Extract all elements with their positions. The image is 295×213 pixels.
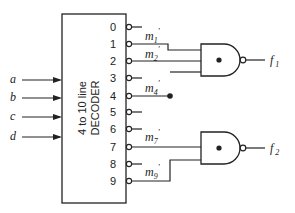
bubble-icon [126,161,131,166]
input-a: a [10,72,62,86]
gate-dot-icon [216,145,221,150]
gate-dot-icon [216,57,221,62]
label-m7: m7′ [145,127,161,146]
label-m2: m2′ [145,44,161,63]
input-label-d: d [10,129,17,143]
decoder-label-line1: 4 to 10 line [76,81,88,135]
output-bubble-icon [240,145,246,151]
output-index-1: 1 [110,38,116,50]
wire-m1 [132,44,201,50]
input-label-c: c [10,109,16,123]
output-index-3: 3 [110,72,116,84]
nand-gate-2: f2 [201,132,279,164]
wiring [132,44,201,181]
minterm-labels: m1′ m2′ m4′ m7′ m9′ [145,26,161,181]
output-index-4: 4 [110,90,116,102]
output-index-9: 9 [110,175,116,187]
bubble-icon [126,75,131,80]
output-index-8: 8 [110,158,116,170]
output-index-6: 6 [110,123,116,135]
decoder-label: 4 to 10 line DECODER [76,80,101,135]
output-bubble-icon [240,57,246,63]
label-m9: m9′ [145,162,161,181]
arrow-right-icon [53,77,62,83]
output-index-0: 0 [110,21,116,33]
bubble-icon [126,41,131,46]
nand-gate-1: f1 [201,44,279,76]
decoder-label-line2: DECODER [89,80,101,135]
inversion-bubbles [126,24,131,183]
input-label-b: b [10,90,16,104]
output-label-f1: f1 [270,53,279,69]
bubble-icon [126,144,131,149]
input-c: c [10,109,62,123]
arrow-right-icon [53,134,62,140]
bubble-icon [126,109,131,114]
output-index-5: 5 [110,106,116,118]
bubble-icon [126,58,131,63]
output-index-2: 2 [110,55,116,67]
wire-m9 [132,160,201,181]
decoder-nand-circuit: 4 to 10 line DECODER a b c d 0 1 2 3 4 5… [0,0,295,213]
arrow-right-icon [53,114,62,120]
arrow-right-icon [53,95,62,101]
input-b: b [10,90,62,104]
input-label-a: a [10,72,16,86]
bubble-icon [126,93,131,98]
label-m1: m1′ [145,26,161,45]
label-m4: m4′ [145,78,161,97]
bubble-icon [126,178,131,183]
junction-dot-icon [167,93,173,99]
input-d: d [10,129,62,143]
bubble-icon [126,24,131,29]
output-label-f2: f2 [270,141,279,157]
output-index-7: 7 [110,141,116,153]
bubble-icon [126,126,131,131]
